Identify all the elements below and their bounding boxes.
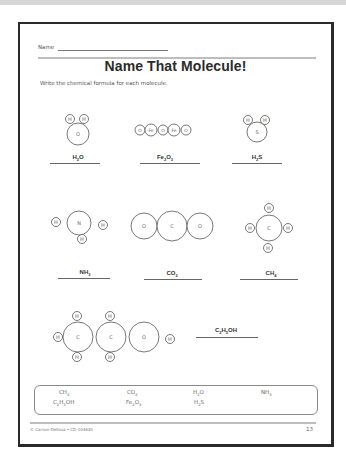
word-bank-item: C2H5OH — [53, 399, 74, 407]
svg-text:O: O — [198, 223, 202, 229]
svg-text:H: H — [108, 313, 112, 319]
svg-text:H: H — [286, 225, 290, 231]
word-bank-item: NH3 — [261, 389, 272, 397]
svg-text:C: C — [267, 225, 271, 231]
svg-text:O: O — [76, 131, 80, 137]
footer-rule — [30, 422, 316, 424]
svg-text:C: C — [170, 223, 174, 229]
word-bank: CH4 CO2 H2O NH3 C2H5OH Fe2O3 H2S — [34, 385, 318, 415]
svg-text:N: N — [77, 220, 81, 226]
name-input-line[interactable] — [58, 50, 168, 51]
svg-text:H: H — [75, 354, 79, 360]
svg-text:H: H — [75, 313, 79, 319]
svg-text:Fe: Fe — [148, 128, 153, 133]
molecule-ammonia-diagram: H N H H — [46, 204, 116, 254]
molecule-methane-diagram: H H C H H — [242, 202, 302, 262]
worksheet-page: Name Name That Molecule! Write the chemi… — [18, 22, 334, 447]
svg-text:O: O — [184, 128, 188, 133]
answer-carbon-dioxide: CO2 — [157, 270, 187, 278]
svg-text:C: C — [109, 334, 113, 340]
svg-text:Fe: Fe — [171, 128, 176, 133]
answer-hydrogen-sulfide: H2S — [242, 154, 272, 162]
answer-ammonia: NH3 — [70, 269, 100, 277]
word-bank-item: Fe2O3 — [126, 399, 141, 407]
svg-text:H: H — [54, 219, 58, 225]
svg-text:H: H — [68, 116, 72, 122]
answer-methane: CH4 — [256, 270, 286, 278]
word-bank-item: CH4 — [59, 389, 69, 397]
name-label: Name — [38, 44, 54, 50]
word-bank-item: CO2 — [127, 389, 138, 397]
svg-text:H: H — [266, 245, 270, 251]
answer-iron-oxide: Fe2O3 — [150, 154, 180, 162]
molecule-carbon-dioxide-diagram: O C O — [130, 210, 220, 250]
svg-text:O: O — [138, 128, 142, 133]
answer-line-methane[interactable] — [240, 279, 298, 280]
svg-text:H: H — [56, 334, 60, 340]
svg-text:S: S — [255, 129, 258, 135]
svg-text:H: H — [101, 222, 105, 228]
answer-ethanol: C2H5OH — [206, 327, 246, 335]
answer-water: H2O — [58, 154, 98, 162]
svg-text:H: H — [246, 117, 250, 123]
instructions: Write the chemical formula for each mole… — [40, 80, 168, 86]
svg-text:H: H — [80, 236, 84, 242]
word-bank-item: H2S — [194, 399, 204, 407]
answer-line-ammonia[interactable] — [58, 278, 110, 279]
molecule-ethanol-diagram: H H H C C H H O H — [52, 310, 182, 370]
top-edge-strip — [0, 0, 346, 5]
answer-line-iron-oxide[interactable] — [140, 163, 200, 164]
svg-text:H: H — [108, 354, 112, 360]
word-bank-item: H2O — [193, 389, 204, 397]
svg-text:H: H — [168, 336, 172, 342]
svg-text:H: H — [267, 205, 271, 211]
page-number: 13 — [306, 426, 313, 432]
page-title: Name That Molecule! — [20, 58, 331, 74]
molecule-hydrogen-sulfide-diagram: S H H — [236, 110, 286, 155]
svg-text:O: O — [142, 223, 146, 229]
molecule-water-diagram: O H H — [56, 110, 116, 160]
answer-line-water[interactable] — [50, 163, 100, 164]
svg-text:H: H — [82, 116, 86, 122]
svg-text:O: O — [142, 334, 146, 340]
molecule-iron-oxide-diagram: O Fe O Fe O — [134, 122, 204, 142]
svg-text:O: O — [161, 128, 165, 133]
answer-line-ethanol[interactable] — [196, 337, 258, 338]
copyright: © Carson-Dellosa • CD-104640 — [30, 427, 93, 432]
svg-text:H: H — [263, 117, 267, 123]
answer-line-hydrogen-sulfide[interactable] — [232, 163, 282, 164]
svg-text:H: H — [248, 225, 252, 231]
answer-line-carbon-dioxide[interactable] — [144, 279, 202, 280]
svg-text:C: C — [76, 334, 80, 340]
